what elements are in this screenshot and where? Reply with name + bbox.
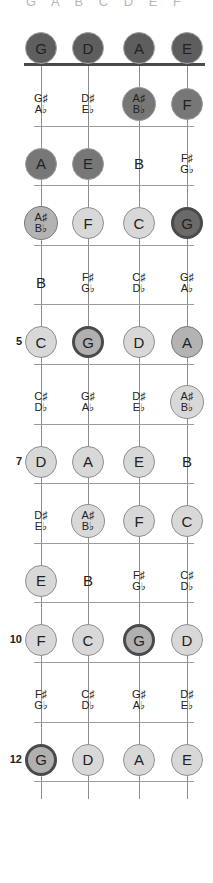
- note-fret4-stringG[interactable]: B: [19, 261, 63, 305]
- note-label: F♯G♭: [34, 689, 48, 711]
- note-fret7-stringG[interactable]: D: [19, 440, 63, 484]
- note-label: C: [83, 633, 94, 648]
- note-fret2-stringE[interactable]: F♯G♭: [165, 142, 209, 186]
- open-string-note-E[interactable]: E: [165, 26, 209, 70]
- note-fret3-stringD[interactable]: F: [66, 201, 110, 245]
- note-fret11-stringG[interactable]: F♯G♭: [19, 678, 63, 722]
- note-fret4-stringE[interactable]: G♯A♭: [165, 261, 209, 305]
- note-fret4-stringD[interactable]: F♯G♭: [66, 261, 110, 305]
- note-label: C: [134, 216, 145, 231]
- note-fret7-stringD[interactable]: A: [66, 440, 110, 484]
- note-fret6-stringG[interactable]: C♯D♭: [19, 380, 63, 424]
- note-label: D: [182, 633, 193, 648]
- note-flat-name: B♭: [181, 402, 194, 413]
- note-fret3-stringA[interactable]: C: [117, 201, 161, 245]
- note-fret6-stringD[interactable]: G♯A♭: [66, 380, 110, 424]
- note-flat-name: D♭: [132, 283, 145, 294]
- note-label: G♯A♭: [132, 689, 146, 711]
- note-label: D: [134, 335, 145, 350]
- note-fret10-stringD[interactable]: C: [66, 618, 110, 662]
- note-fret9-stringG[interactable]: E: [19, 559, 63, 603]
- note-fret8-stringE[interactable]: C: [165, 499, 209, 543]
- note-label: E: [83, 156, 93, 171]
- note-label: B: [182, 454, 192, 469]
- note-fret1-stringG[interactable]: G♯A♭: [19, 82, 63, 126]
- note-label: E: [182, 752, 192, 767]
- note-label: B: [134, 156, 144, 171]
- note-label: D♯E♭: [132, 391, 145, 413]
- note-fret8-stringA[interactable]: F: [117, 499, 161, 543]
- note-fret2-stringG[interactable]: A: [19, 142, 63, 186]
- note-fret5-stringE[interactable]: A: [165, 320, 209, 364]
- note-flat-name: E♭: [180, 700, 193, 711]
- note-fret8-stringD[interactable]: A♯B♭: [66, 499, 110, 543]
- fret-number-12: 12: [0, 753, 22, 765]
- note-label: A♯B♭: [133, 93, 146, 115]
- note-fret12-stringG[interactable]: G: [19, 738, 63, 782]
- note-fret5-stringA[interactable]: D: [117, 320, 161, 364]
- note-fret2-stringD[interactable]: E: [66, 142, 110, 186]
- note-label: C♯D♭: [180, 570, 193, 592]
- note-fret1-stringA[interactable]: A♯B♭: [117, 82, 161, 126]
- note-label: C♯D♭: [34, 391, 47, 413]
- note-flat-name: D♭: [81, 700, 94, 711]
- note-label: G♯A♭: [81, 391, 95, 413]
- note-fret1-stringE[interactable]: F: [165, 82, 209, 126]
- note-fret2-stringA[interactable]: B: [117, 142, 161, 186]
- note-fret4-stringA[interactable]: C♯D♭: [117, 261, 161, 305]
- note-fret6-stringA[interactable]: D♯E♭: [117, 380, 161, 424]
- note-fret7-stringE[interactable]: B: [165, 440, 209, 484]
- fret-number-5: 5: [0, 335, 22, 347]
- note-flat-name: B♭: [133, 104, 146, 115]
- note-label: G♯A♭: [34, 93, 48, 115]
- note-fret12-stringD[interactable]: D: [66, 738, 110, 782]
- note-label: C♯D♭: [81, 689, 94, 711]
- open-string-note-G[interactable]: G: [19, 26, 63, 70]
- note-label: F♯G♭: [180, 153, 194, 175]
- note-label: F: [83, 216, 92, 231]
- note-fret7-stringA[interactable]: E: [117, 440, 161, 484]
- note-fret9-stringA[interactable]: F♯G♭: [117, 559, 161, 603]
- note-fret11-stringE[interactable]: D♯E♭: [165, 678, 209, 722]
- note-fret10-stringA[interactable]: G: [117, 618, 161, 662]
- note-flat-name: E♭: [132, 402, 145, 413]
- note-fret12-stringA[interactable]: A: [117, 738, 161, 782]
- note-fret9-stringD[interactable]: B: [66, 559, 110, 603]
- note-label: C: [182, 514, 193, 529]
- open-string-note-A[interactable]: A: [117, 26, 161, 70]
- note-fret11-stringA[interactable]: G♯A♭: [117, 678, 161, 722]
- note-fret9-stringE[interactable]: C♯D♭: [165, 559, 209, 603]
- note-label: D♯E♭: [180, 689, 193, 711]
- note-fret5-stringG[interactable]: C: [19, 320, 63, 364]
- note-label: G: [133, 633, 145, 648]
- clipped-header-text: G A B C D E F: [0, 0, 213, 6]
- note-label: F: [182, 97, 191, 112]
- note-fret3-stringG[interactable]: A♯B♭: [19, 201, 63, 245]
- note-label: A: [83, 454, 93, 469]
- note-label: B: [36, 275, 46, 290]
- note-fret1-stringD[interactable]: D♯E♭: [66, 82, 110, 126]
- open-string-note-D[interactable]: D: [66, 26, 110, 70]
- note-fret10-stringE[interactable]: D: [165, 618, 209, 662]
- note-flat-name: A♭: [81, 402, 95, 413]
- note-fret3-stringE[interactable]: G: [165, 201, 209, 245]
- note-flat-name: E♭: [34, 521, 47, 532]
- note-fret6-stringE[interactable]: A♯B♭: [165, 380, 209, 424]
- note-fret12-stringE[interactable]: E: [165, 738, 209, 782]
- fret-number-7: 7: [0, 455, 22, 467]
- note-fret11-stringD[interactable]: C♯D♭: [66, 678, 110, 722]
- note-label: E: [134, 454, 144, 469]
- note-fret10-stringG[interactable]: F: [19, 618, 63, 662]
- note-label: F♯G♭: [81, 272, 95, 294]
- note-fret8-stringG[interactable]: D♯E♭: [19, 499, 63, 543]
- note-label: F♯G♭: [132, 570, 146, 592]
- note-flat-name: B♭: [82, 521, 95, 532]
- note-label: A♯B♭: [35, 212, 48, 234]
- note-flat-name: B♭: [35, 223, 48, 234]
- note-sharp-name: F♯: [180, 153, 194, 164]
- note-fret5-stringD[interactable]: G: [66, 320, 110, 364]
- note-label: G: [82, 335, 94, 350]
- note-flat-name: D♭: [180, 581, 193, 592]
- note-label: A♯B♭: [181, 391, 194, 413]
- note-flat-name: A♭: [132, 700, 146, 711]
